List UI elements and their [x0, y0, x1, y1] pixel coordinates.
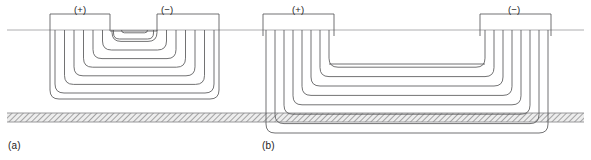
coil-a-turn — [112, 30, 157, 41]
coil-a-turn — [65, 30, 205, 84]
terminal-label-b-negative: (−) — [508, 4, 520, 15]
coil-b-turn — [311, 30, 503, 86]
terminal-label-a-positive: (+) — [74, 4, 86, 15]
panel-caption-a: (a) — [8, 140, 21, 151]
coil-a-outer-bottom — [50, 90, 219, 99]
figure-root: (+) (−) (+) (−) (a) (b) — [0, 0, 591, 160]
coil-b-turn — [329, 30, 485, 67]
coil-cross-section-a — [50, 14, 219, 99]
coil-a-turn — [74, 30, 195, 76]
terminal-label-a-negative: (−) — [161, 4, 173, 15]
coil-a-turn — [55, 30, 214, 93]
coil-b-right-terminal-pillar — [480, 14, 551, 36]
panel-caption-b: (b) — [262, 140, 275, 151]
coil-a-turn — [84, 30, 186, 67]
coil-b-left-terminal-pillar — [263, 14, 334, 36]
coil-a-outer-shell — [50, 14, 219, 90]
figure-canvas — [0, 0, 591, 160]
terminal-label-b-positive: (+) — [292, 4, 304, 15]
coil-b-turn — [320, 30, 494, 77]
coil-a-turn — [93, 30, 176, 59]
